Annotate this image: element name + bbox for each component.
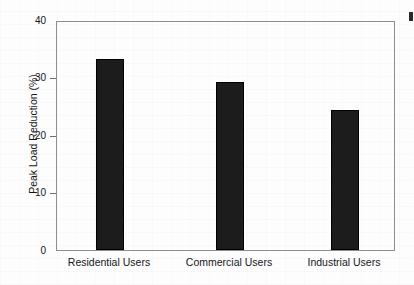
y-tick-label-30: 30 [20, 73, 46, 83]
y-tick-label-10: 10 [20, 188, 46, 198]
x-tick-label-commercial-users: Commercial Users [169, 256, 289, 268]
plot-area [56, 21, 395, 251]
scan-edge-mark-icon [409, 12, 413, 21]
x-tick-label-industrial-users: Industrial Users [284, 256, 404, 268]
x-tick-label-residential-users: Residential Users [49, 256, 169, 268]
y-tick-label-20: 20 [20, 131, 46, 141]
bar-chart-figure: Peak Load Reduction (%) 0 10 20 30 40 Re… [0, 0, 414, 285]
y-tick-label-0: 0 [20, 246, 46, 256]
bar-commercial-users [216, 82, 244, 250]
y-tick-label-40: 40 [20, 16, 46, 26]
bar-residential-users [96, 59, 124, 250]
bar-industrial-users [331, 110, 359, 250]
